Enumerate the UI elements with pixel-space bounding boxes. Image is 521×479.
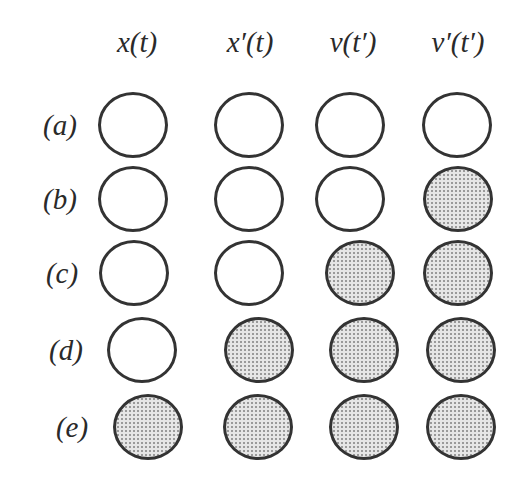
filled-circle <box>113 394 183 460</box>
filled-circle <box>329 394 399 460</box>
empty-circle <box>98 166 168 232</box>
filled-circle <box>329 317 399 383</box>
empty-circle <box>315 92 385 158</box>
filled-circle <box>223 394 293 460</box>
row-label: (e) <box>56 411 88 444</box>
column-header: v(t′) <box>330 26 377 59</box>
filled-circle <box>224 317 294 383</box>
empty-circle <box>315 166 385 232</box>
row-label: (d) <box>49 334 83 367</box>
row-label: (b) <box>43 183 77 216</box>
filled-circle <box>426 317 496 383</box>
filled-circle <box>426 394 496 460</box>
empty-circle <box>214 92 284 158</box>
filled-circle <box>423 240 493 306</box>
column-header: x(t) <box>117 26 157 59</box>
filled-circle <box>423 166 493 232</box>
empty-circle <box>214 240 284 306</box>
empty-circle <box>422 92 492 158</box>
column-header: v′(t′) <box>432 26 485 59</box>
empty-circle <box>98 92 168 158</box>
row-label: (c) <box>46 257 78 290</box>
filled-circle <box>325 240 395 306</box>
empty-circle <box>107 317 177 383</box>
row-label: (a) <box>43 109 77 142</box>
column-header: x′(t) <box>227 26 274 59</box>
empty-circle <box>99 240 169 306</box>
empty-circle <box>214 166 284 232</box>
